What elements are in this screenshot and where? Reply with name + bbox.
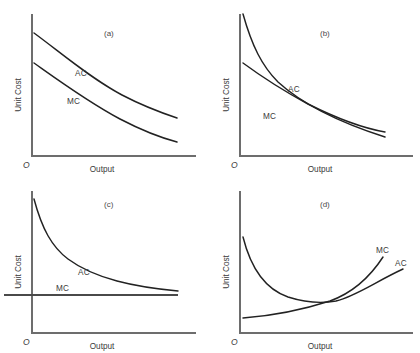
chart-panel-c: (c) AC MC Unit Cost Output O <box>0 177 210 353</box>
x-axis-label-c: Output <box>90 342 115 351</box>
chart-panel-a: (a) AC MC Unit Cost Output O <box>0 0 210 176</box>
series-label-ac-b: AC <box>288 85 300 94</box>
axes-a <box>32 14 196 156</box>
curve-mc-d <box>243 257 383 318</box>
origin-label-b: O <box>231 160 238 170</box>
curve-mc-b <box>243 63 385 132</box>
axes-c <box>32 191 196 333</box>
series-label-mc-c: MC <box>56 284 69 293</box>
panel-caption-b: (b) <box>320 29 330 38</box>
curve-ac-a <box>34 33 177 118</box>
y-axis-label-b: Unit Cost <box>222 77 231 111</box>
series-label-ac-a: AC <box>75 69 87 78</box>
curve-mc-a <box>34 63 177 142</box>
curve-ac-c <box>34 199 178 291</box>
chart-panel-d: (d) MC AC Unit Cost Output O <box>210 177 420 353</box>
series-label-mc-d: MC <box>376 246 389 255</box>
x-axis-label-a: Output <box>90 165 115 174</box>
origin-label-a: O <box>23 160 30 170</box>
origin-label-d: O <box>231 337 238 347</box>
panel-caption-a: (a) <box>104 29 114 38</box>
x-axis-label-b: Output <box>308 165 333 174</box>
y-axis-label-c: Unit Cost <box>14 254 23 288</box>
chart-panel-b: (b) AC MC Unit Cost Output O <box>210 0 420 176</box>
series-label-mc-b: MC <box>263 112 276 121</box>
panel-caption-d: (d) <box>320 200 330 209</box>
x-axis-label-d: Output <box>308 342 333 351</box>
series-label-ac-c: AC <box>78 268 90 277</box>
y-axis-label-d: Unit Cost <box>222 254 231 288</box>
cost-curves-figure: (a) AC MC Unit Cost Output O (b) AC MC U… <box>0 0 420 353</box>
origin-label-c: O <box>23 337 30 347</box>
series-label-mc-a: MC <box>67 97 80 106</box>
series-label-ac-d: AC <box>395 259 407 268</box>
panel-caption-c: (c) <box>104 200 114 209</box>
axes-d <box>240 191 413 333</box>
y-axis-label-a: Unit Cost <box>14 77 23 111</box>
